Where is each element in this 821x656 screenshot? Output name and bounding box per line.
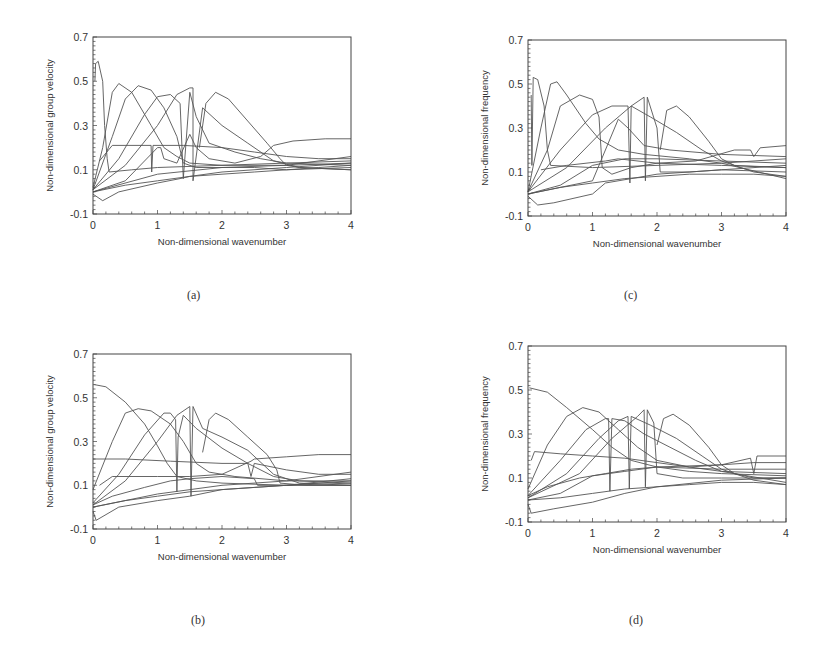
y-tick-label: -0.1 — [70, 208, 88, 220]
curve-mode6 — [93, 92, 351, 189]
caption-d: (d) — [629, 613, 643, 628]
curve-mode2 — [93, 483, 351, 520]
y-axis: 0.70.50.30.1-0.1Non-dimensional group ve… — [44, 348, 97, 535]
curve-mode8 — [199, 92, 351, 170]
x-tick-label: 4 — [783, 527, 789, 539]
x-tick-label: 1 — [155, 219, 161, 231]
figure-canvas: 0.70.50.30.1-0.1Non-dimensional group ve… — [0, 0, 821, 656]
x-tick-label: 4 — [348, 534, 354, 546]
curve-mode3 — [94, 385, 351, 486]
x-axis: 01234Non-dimensional wavenumber — [525, 212, 789, 249]
x-tick-label: 4 — [348, 219, 354, 231]
curve-mode6 — [528, 416, 786, 497]
y-axis: 0.70.50.30.1-0.1Non-dimensional frequenc… — [479, 34, 532, 222]
y-tick-label: -0.1 — [505, 516, 523, 528]
y-tick-label: 0.1 — [508, 472, 523, 484]
x-tick-label: 0 — [525, 221, 531, 233]
curve-mode6 — [93, 407, 351, 505]
chart-panel-c: 0.70.50.30.1-0.1Non-dimensional frequenc… — [479, 34, 789, 249]
curve-mode4 — [528, 82, 786, 192]
y-tick-label: 0.7 — [73, 31, 88, 43]
y-tick-label: 0.7 — [508, 34, 523, 46]
caption-a: (a) — [187, 288, 200, 303]
y-tick-label: 0.1 — [73, 479, 88, 491]
chart-panel-b: 0.70.50.30.1-0.1Non-dimensional group ve… — [44, 348, 354, 562]
curve-mode1 — [528, 482, 786, 500]
x-axis: 01234Non-dimensional wavenumber — [90, 525, 354, 562]
x-tick-label: 1 — [155, 534, 161, 546]
x-tick-label: 4 — [783, 221, 789, 233]
y-tick-label: -0.1 — [505, 210, 523, 222]
series-group — [528, 388, 786, 513]
x-tick-label: 3 — [284, 219, 290, 231]
curve-mode5 — [528, 419, 786, 496]
caption-c: (c) — [624, 288, 637, 303]
y-tick-label: 0.1 — [508, 166, 523, 178]
x-tick-label: 0 — [90, 219, 96, 231]
y-axis-label: Non-dimensional group velocity — [44, 59, 55, 192]
x-tick-label: 2 — [654, 527, 660, 539]
x-axis-label: Non-dimensional wavenumber — [593, 238, 721, 249]
caption-b: (b) — [191, 613, 205, 628]
x-tick-label: 0 — [90, 534, 96, 546]
x-axis-label: Non-dimensional wavenumber — [158, 236, 286, 247]
y-tick-label: 0.1 — [73, 164, 88, 176]
x-axis-label: Non-dimensional wavenumber — [158, 551, 286, 562]
curve-mode1 — [528, 174, 786, 194]
y-tick-label: 0.3 — [508, 122, 523, 134]
y-axis: 0.70.50.30.1-0.1Non-dimensional frequenc… — [479, 340, 532, 528]
y-tick-label: -0.1 — [70, 523, 88, 535]
y-axis-label: Non-dimensional frequency — [479, 70, 490, 186]
y-tick-label: 0.7 — [508, 340, 523, 352]
curve-mode2 — [528, 478, 786, 513]
y-axis-label: Non-dimensional frequency — [479, 376, 490, 492]
y-tick-label: 0.5 — [73, 392, 88, 404]
series-group — [93, 385, 351, 521]
y-axis: 0.70.50.30.1-0.1Non-dimensional group ve… — [44, 31, 97, 220]
y-axis-label: Non-dimensional group velocity — [44, 375, 55, 508]
curve-mode2 — [528, 165, 786, 205]
figure: 0.70.50.30.1-0.1Non-dimensional group ve… — [0, 0, 821, 656]
x-axis: 01234Non-dimensional wavenumber — [90, 210, 354, 247]
plot-frame — [528, 346, 786, 522]
y-tick-label: 0.3 — [73, 120, 88, 132]
x-tick-label: 3 — [719, 527, 725, 539]
curve-mode8 — [660, 106, 786, 168]
plot-frame — [93, 354, 351, 529]
x-tick-label: 2 — [219, 534, 225, 546]
curve-mode8 — [657, 414, 786, 478]
series-group — [93, 61, 351, 200]
curve-mode7 — [528, 97, 786, 192]
y-tick-label: 0.5 — [73, 75, 88, 87]
x-tick-label: 3 — [284, 534, 290, 546]
x-tick-label: 1 — [590, 527, 596, 539]
chart-panel-d: 0.70.50.30.1-0.1Non-dimensional frequenc… — [479, 340, 789, 555]
x-tick-label: 2 — [654, 221, 660, 233]
curve-mode10 — [93, 134, 351, 192]
x-axis: 01234Non-dimensional wavenumber — [525, 518, 789, 555]
y-tick-label: 0.3 — [508, 428, 523, 440]
x-axis-label: Non-dimensional wavenumber — [593, 544, 721, 555]
x-tick-label: 1 — [590, 221, 596, 233]
y-tick-label: 0.5 — [508, 78, 523, 90]
curve-mode6 — [528, 106, 786, 192]
x-tick-label: 3 — [719, 221, 725, 233]
y-tick-label: 0.5 — [508, 384, 523, 396]
chart-panel-a: 0.70.50.30.1-0.1Non-dimensional group ve… — [44, 31, 354, 247]
x-tick-label: 2 — [219, 219, 225, 231]
y-tick-label: 0.3 — [73, 436, 88, 448]
x-tick-label: 0 — [525, 527, 531, 539]
y-tick-label: 0.7 — [73, 348, 88, 360]
series-group — [528, 77, 786, 205]
